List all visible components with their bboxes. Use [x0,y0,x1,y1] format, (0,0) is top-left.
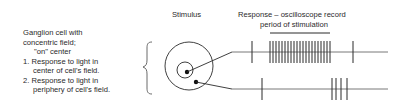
curly-bracket [143,42,152,94]
cell-title-line3: "on" center [34,47,71,56]
stimulus-header: Stimulus [172,10,201,19]
periphery-leader-line [196,82,232,89]
item1-line1: 1. Response to light in [23,57,98,66]
stimulation-period-label: period of stimulation [260,20,328,29]
cell-title-line2: concentric field; [23,38,76,47]
outer-field-circle [165,42,213,90]
receptive-field-stimulus [165,42,213,90]
item2-line2: periphery of cell's field. [33,85,110,94]
cell-title-line1: Ganglion cell with [23,28,83,37]
center-leader-line [187,52,232,72]
response-header: Response – oscilloscope record [238,10,346,19]
item2-line1: 2. Response to light in [23,76,98,85]
periphery-response-trace [232,78,388,100]
oscilloscope-traces [187,41,388,100]
item1-line2: center of cell's field. [33,66,99,75]
center-response-trace [232,41,388,63]
